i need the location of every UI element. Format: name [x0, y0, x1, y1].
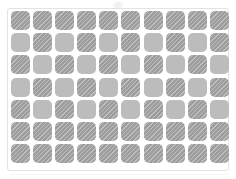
swatch-cell-r2-c8[interactable]: [166, 33, 185, 52]
swatch-cell-r2-c4[interactable]: [77, 33, 96, 52]
swatch-cell-r1-c7[interactable]: [144, 11, 163, 30]
swatch-cell-r5-c2[interactable]: [33, 100, 52, 119]
swatch-cell-r7-c6[interactable]: [121, 144, 140, 163]
swatch-cell-r1-c5[interactable]: [99, 11, 118, 30]
swatch-cell-r4-c8[interactable]: [166, 78, 185, 97]
swatch-cell-r6-c7[interactable]: [144, 122, 163, 141]
swatch-cell-r7-c4[interactable]: [77, 144, 96, 163]
swatch-cell-r1-c9[interactable]: [188, 11, 207, 30]
swatch-cell-r1-c2[interactable]: [33, 11, 52, 30]
swatch-cell-r3-c9[interactable]: [188, 55, 207, 74]
swatch-cell-r3-c1[interactable]: [11, 55, 30, 74]
swatch-cell-r6-c5[interactable]: [99, 122, 118, 141]
swatch-cell-r5-c3[interactable]: [55, 100, 74, 119]
swatch-cell-r3-c2[interactable]: [33, 55, 52, 74]
swatch-cell-r7-c5[interactable]: [99, 144, 118, 163]
swatch-cell-r5-c6[interactable]: [121, 100, 140, 119]
swatch-cell-r3-c8[interactable]: [166, 55, 185, 74]
swatch-cell-r1-c6[interactable]: [121, 11, 140, 30]
swatch-cell-r4-c9[interactable]: [188, 78, 207, 97]
swatch-grid: [11, 11, 229, 163]
swatch-cell-r7-c7[interactable]: [144, 144, 163, 163]
swatch-cell-r4-c7[interactable]: [144, 78, 163, 97]
swatch-cell-r5-c7[interactable]: [144, 100, 163, 119]
swatch-cell-r4-c3[interactable]: [55, 78, 74, 97]
swatch-cell-r1-c1[interactable]: [11, 11, 30, 30]
swatch-cell-r6-c8[interactable]: [166, 122, 185, 141]
swatch-cell-r2-c2[interactable]: [33, 33, 52, 52]
swatch-cell-r3-c10[interactable]: [210, 55, 229, 74]
swatch-cell-r6-c3[interactable]: [55, 122, 74, 141]
swatch-cell-r3-c5[interactable]: [99, 55, 118, 74]
swatch-cell-r7-c8[interactable]: [166, 144, 185, 163]
swatch-cell-r2-c7[interactable]: [144, 33, 163, 52]
swatch-cell-r6-c2[interactable]: [33, 122, 52, 141]
swatch-cell-r4-c5[interactable]: [99, 78, 118, 97]
swatch-cell-r2-c6[interactable]: [121, 33, 140, 52]
swatch-cell-r3-c4[interactable]: [77, 55, 96, 74]
swatch-cell-r6-c9[interactable]: [188, 122, 207, 141]
swatch-cell-r4-c4[interactable]: [77, 78, 96, 97]
swatch-cell-r2-c10[interactable]: [210, 33, 229, 52]
swatch-cell-r5-c9[interactable]: [188, 100, 207, 119]
swatch-cell-r1-c8[interactable]: [166, 11, 185, 30]
swatch-cell-r2-c3[interactable]: [55, 33, 74, 52]
swatch-cell-r5-c4[interactable]: [77, 100, 96, 119]
swatch-cell-r7-c3[interactable]: [55, 144, 74, 163]
swatch-cell-r4-c2[interactable]: [33, 78, 52, 97]
baseline-shadow: [9, 174, 228, 175]
swatch-panel-canvas: [0, 0, 236, 179]
swatch-cell-r2-c1[interactable]: [11, 33, 30, 52]
swatch-cell-r1-c4[interactable]: [77, 11, 96, 30]
swatch-cell-r3-c3[interactable]: [55, 55, 74, 74]
swatch-cell-r4-c6[interactable]: [121, 78, 140, 97]
swatch-cell-r6-c1[interactable]: [11, 122, 30, 141]
swatch-cell-r3-c6[interactable]: [121, 55, 140, 74]
swatch-cell-r1-c10[interactable]: [210, 11, 229, 30]
swatch-cell-r6-c10[interactable]: [210, 122, 229, 141]
swatch-cell-r2-c9[interactable]: [188, 33, 207, 52]
swatch-cell-r5-c8[interactable]: [166, 100, 185, 119]
swatch-cell-r7-c9[interactable]: [188, 144, 207, 163]
swatch-cell-r2-c5[interactable]: [99, 33, 118, 52]
swatch-cell-r6-c4[interactable]: [77, 122, 96, 141]
swatch-cell-r5-c1[interactable]: [11, 100, 30, 119]
swatch-cell-r3-c7[interactable]: [144, 55, 163, 74]
swatch-cell-r1-c3[interactable]: [55, 11, 74, 30]
swatch-cell-r7-c10[interactable]: [210, 144, 229, 163]
swatch-cell-r4-c10[interactable]: [210, 78, 229, 97]
swatch-cell-r7-c2[interactable]: [33, 144, 52, 163]
swatch-cell-r5-c5[interactable]: [99, 100, 118, 119]
swatch-cell-r6-c6[interactable]: [121, 122, 140, 141]
swatch-cell-r5-c10[interactable]: [210, 100, 229, 119]
swatch-cell-r4-c1[interactable]: [11, 78, 30, 97]
swatch-cell-r7-c1[interactable]: [11, 144, 30, 163]
